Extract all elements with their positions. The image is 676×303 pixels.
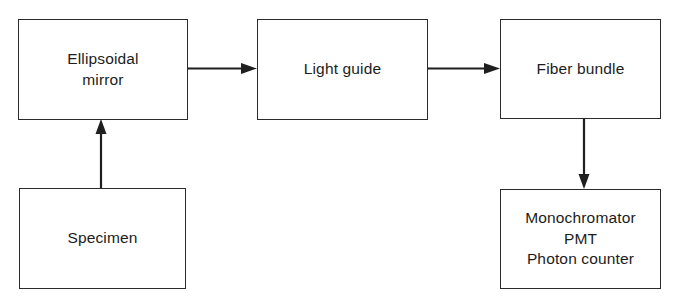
arrow-ellipsoidal-mirror-to-light-guide bbox=[188, 63, 257, 74]
arrow-fiber-bundle-to-detector bbox=[579, 119, 590, 189]
node-light-guide-label: Light guide bbox=[300, 59, 386, 79]
node-ellipsoidal-mirror-label: Ellipsoidal mirror bbox=[63, 49, 142, 90]
node-fiber-bundle: Fiber bundle bbox=[500, 19, 661, 119]
block-diagram: Ellipsoidal mirror Light guide Fiber bun… bbox=[0, 0, 676, 303]
arrow-light-guide-to-fiber-bundle bbox=[428, 63, 500, 74]
node-ellipsoidal-mirror: Ellipsoidal mirror bbox=[18, 19, 188, 120]
node-fiber-bundle-label: Fiber bundle bbox=[533, 59, 629, 79]
arrow-specimen-to-ellipsoidal-mirror bbox=[96, 119, 107, 188]
node-detector: Monochromator PMT Photon counter bbox=[500, 189, 661, 289]
node-specimen-label: Specimen bbox=[63, 228, 141, 248]
node-detector-label: Monochromator PMT Photon counter bbox=[521, 208, 640, 269]
node-light-guide: Light guide bbox=[257, 19, 428, 120]
node-specimen: Specimen bbox=[19, 188, 186, 289]
